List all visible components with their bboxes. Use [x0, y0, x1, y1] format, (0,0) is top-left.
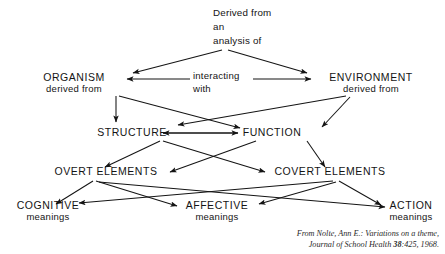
arrow-covert-to-affective [259, 182, 336, 204]
node-action-sublabel: meanings [389, 212, 432, 223]
node-function-label: FUNCTION [243, 127, 302, 139]
arrow-function-to-overt [170, 141, 256, 172]
citation-pages-year: :425, 1968. [401, 240, 439, 249]
node-structure-label: STRUCTURE [97, 127, 167, 139]
node-cognitive: COGNITIVE meanings [17, 200, 80, 222]
arrow-caption-to-environment [228, 50, 307, 73]
arrow-function-to-covert [307, 141, 325, 167]
interacting-line-2: with [193, 83, 239, 96]
node-action-label: ACTION [389, 200, 432, 212]
node-function: FUNCTION [243, 127, 302, 139]
arrow-covert-to-action [339, 181, 381, 205]
node-organism: ORGANISM derived from [43, 72, 105, 94]
arrow-environment-to-structure [178, 96, 346, 125]
node-action: ACTION meanings [389, 200, 432, 222]
node-organism-label: ORGANISM [43, 72, 105, 84]
node-affective-label: AFFECTIVE [186, 200, 249, 212]
node-cognitive-label: COGNITIVE [17, 200, 80, 212]
top-caption-line-1: Derived from [213, 6, 271, 20]
node-environment-label: ENVIRONMENT [329, 72, 413, 84]
node-covert-elements: COVERT ELEMENTS [274, 166, 385, 178]
node-overt-elements: OVERT ELEMENTS [54, 166, 157, 178]
node-environment: ENVIRONMENT derived from [329, 72, 413, 94]
concept-diagram: Derived from an analysis of interacting … [0, 0, 445, 254]
node-affective: AFFECTIVE meanings [186, 200, 249, 222]
citation-journal: Journal of School Health [309, 240, 394, 249]
arrow-structure-to-overt [105, 141, 160, 167]
node-organism-sublabel: derived from [43, 84, 105, 95]
source-citation: From Nolte, Ann E.: Variations on a them… [297, 228, 439, 250]
citation-line-2: Journal of School Health 38:425, 1968. [297, 239, 439, 250]
interacting-with-label: interacting with [193, 70, 239, 96]
top-caption-line-2: an [213, 20, 271, 34]
node-structure: STRUCTURE [97, 127, 167, 139]
arrow-environment-to-function [322, 97, 350, 127]
node-cognitive-sublabel: meanings [17, 212, 80, 223]
node-overt-elements-label: OVERT ELEMENTS [54, 166, 157, 178]
node-covert-elements-label: COVERT ELEMENTS [274, 166, 385, 178]
top-caption: Derived from an analysis of [213, 6, 271, 48]
node-environment-sublabel: derived from [329, 84, 413, 95]
arrow-organism-to-function [119, 96, 240, 128]
interacting-line-1: interacting [193, 70, 239, 83]
node-affective-sublabel: meanings [186, 212, 249, 223]
top-caption-line-3: analysis of [213, 34, 271, 48]
citation-line-1: From Nolte, Ann E.: Variations on a them… [297, 228, 439, 239]
arrow-overt-to-affective [96, 181, 177, 206]
